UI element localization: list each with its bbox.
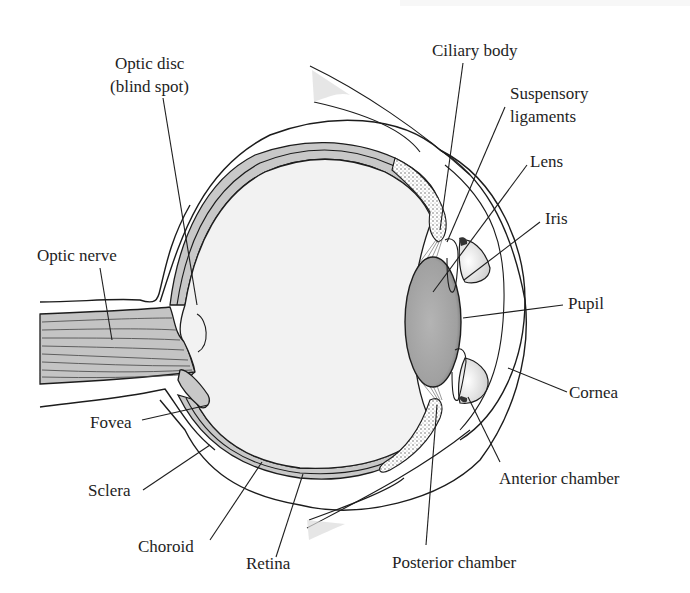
label-choroid: Choroid bbox=[138, 537, 194, 556]
label-cornea: Cornea bbox=[569, 383, 619, 402]
eye-diagram: Optic disc (blind spot) Optic nerve Fove… bbox=[0, 0, 690, 593]
label-sclera: Sclera bbox=[88, 481, 131, 500]
label-iris: Iris bbox=[545, 209, 568, 228]
leader-pupil bbox=[463, 305, 563, 318]
label-optic-nerve: Optic nerve bbox=[37, 246, 117, 265]
leader-anterior-chamber bbox=[468, 397, 500, 462]
label-fovea: Fovea bbox=[90, 413, 132, 432]
leader-retina bbox=[276, 474, 303, 557]
label-pupil: Pupil bbox=[568, 294, 604, 313]
label-suspensory-2: ligaments bbox=[510, 107, 576, 126]
leader-choroid bbox=[210, 462, 262, 540]
leader-cornea bbox=[508, 368, 567, 392]
optic-nerve bbox=[40, 307, 195, 384]
label-retina: Retina bbox=[246, 554, 291, 573]
label-lens: Lens bbox=[530, 152, 563, 171]
label-anterior-chamber: Anterior chamber bbox=[499, 469, 620, 488]
label-posterior-chamber: Posterior chamber bbox=[392, 553, 516, 572]
label-optic-disc-1: Optic disc bbox=[115, 54, 185, 73]
leader-ciliary-body bbox=[440, 63, 463, 230]
leader-sclera bbox=[143, 445, 210, 490]
label-ciliary-body: Ciliary body bbox=[432, 41, 518, 60]
label-optic-disc-2: (blind spot) bbox=[110, 77, 189, 96]
label-suspensory-1: Suspensory bbox=[510, 84, 589, 103]
lens bbox=[405, 257, 461, 387]
iris-upper bbox=[459, 240, 490, 283]
